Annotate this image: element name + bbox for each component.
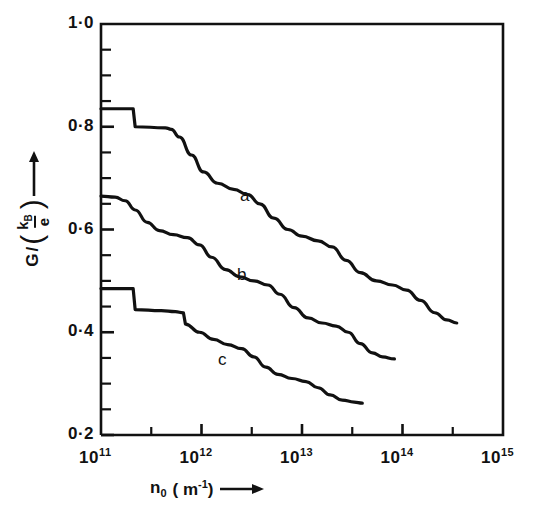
y-axis-label: G / ( kB e ) xyxy=(6,150,60,315)
x-tick-mantissa-1: 10 xyxy=(180,448,200,467)
curve-c xyxy=(101,289,362,404)
y-tick-label-3: 0·4 xyxy=(46,321,94,341)
y-axis-label-e: e xyxy=(34,215,51,227)
y-tick-label-4: 0·2 xyxy=(46,424,94,444)
x-tick-mantissa-2: 10 xyxy=(280,448,300,467)
x-tick-label-3: 1014 xyxy=(381,446,414,468)
x-axis-arrow-icon xyxy=(219,482,265,496)
curve-label-c: c xyxy=(218,350,227,370)
y-axis-label-slash: / xyxy=(23,246,43,251)
x-axis-label: n0 ( m-1) xyxy=(150,478,265,500)
x-tick-mantissa-0: 10 xyxy=(79,448,99,467)
x-tick-label-4: 1015 xyxy=(481,446,514,468)
y-axis-label-fraction: kB e xyxy=(15,212,51,232)
x-tick-exponent-4: 15 xyxy=(501,446,514,458)
curve-a xyxy=(101,109,457,323)
y-axis-label-paren-close: ) xyxy=(17,199,47,209)
y-axis-label-kb-sub: B xyxy=(23,214,34,221)
data-curves xyxy=(101,109,457,403)
x-axis-label-n: n0 xyxy=(150,478,167,499)
x-tick-label-1: 1012 xyxy=(180,446,213,468)
y-tick-label-0: 1·0 xyxy=(46,13,94,33)
figure-container: 1·00·80·60·40·2 10111012101310141015 abc… xyxy=(0,0,541,518)
y-axis-label-kb: k xyxy=(14,221,31,229)
axis-ticks xyxy=(101,50,453,435)
x-axis-label-unit-close: ) xyxy=(208,480,214,499)
x-axis-label-sub: 0 xyxy=(160,488,166,500)
x-tick-exponent-2: 13 xyxy=(300,446,313,458)
x-tick-label-2: 1013 xyxy=(280,446,313,468)
x-tick-mantissa-4: 10 xyxy=(481,448,501,467)
curve-label-b: b xyxy=(237,265,246,285)
y-tick-label-1: 0·8 xyxy=(46,116,94,136)
y-axis-label-paren-open: ( xyxy=(17,234,47,244)
x-tick-exponent-3: 14 xyxy=(400,446,413,458)
x-tick-label-0: 1011 xyxy=(79,446,112,468)
x-tick-exponent-0: 11 xyxy=(99,446,112,458)
curve-b xyxy=(101,196,394,359)
y-axis-label-g: G xyxy=(23,253,43,266)
x-tick-mantissa-3: 10 xyxy=(381,448,401,467)
x-axis-label-unit: ( m-1) xyxy=(173,478,214,500)
x-axis-label-unit-exp: -1 xyxy=(198,478,208,490)
curve-label-a: a xyxy=(240,186,249,206)
x-tick-exponent-1: 12 xyxy=(199,446,212,458)
